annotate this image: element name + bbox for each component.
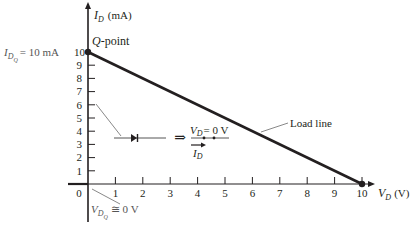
x-tick-labels: 1 2 3 4 5 6 7 8 9 10 bbox=[113, 187, 368, 199]
y-tick-label: 2 bbox=[77, 151, 83, 163]
x-ticks bbox=[115, 177, 362, 184]
y-ticks bbox=[88, 65, 95, 171]
terminal-dot bbox=[203, 137, 206, 140]
load-line-diagram: 1 2 3 4 5 6 7 8 9 10 ID(mA) bbox=[0, 0, 412, 229]
x-tick-label: 3 bbox=[167, 187, 173, 199]
implies-arrow-icon: ⇒ bbox=[174, 130, 186, 145]
vd-intercept-marker bbox=[359, 181, 365, 187]
x-axis-title: VD(V) bbox=[378, 186, 410, 202]
x-tick-label: 9 bbox=[332, 187, 338, 199]
x-tick-label: 10 bbox=[357, 187, 369, 199]
y-tick-label: 6 bbox=[77, 99, 83, 111]
diode-icon bbox=[131, 134, 137, 142]
y-tick-label: 10 bbox=[74, 46, 86, 58]
y-tick-label: 3 bbox=[77, 138, 83, 150]
x-tick-label: 4 bbox=[195, 187, 201, 199]
q-point-label: Q-point bbox=[92, 34, 130, 48]
current-arrow-icon bbox=[201, 143, 206, 148]
id-label: ID bbox=[192, 147, 203, 161]
x-tick-label: 7 bbox=[277, 187, 283, 199]
y-tick-labels: 1 2 3 4 5 6 7 8 9 10 bbox=[74, 46, 86, 177]
x-axis-arrow-icon bbox=[368, 181, 375, 187]
diode-leader-line bbox=[96, 104, 121, 136]
load-line-leader bbox=[261, 123, 288, 132]
x-tick-label: 1 bbox=[113, 187, 119, 199]
y-axis-title: ID(mA) bbox=[93, 8, 132, 24]
vdq-label: VDQ≅ 0 V bbox=[91, 203, 139, 220]
x-tick-label: 5 bbox=[222, 187, 228, 199]
y-tick-label: 8 bbox=[77, 72, 83, 84]
diode-equivalent: ⇒ VD= 0 V ID bbox=[114, 124, 229, 161]
x-tick-label: 8 bbox=[304, 187, 310, 199]
y-tick-label: 1 bbox=[77, 165, 83, 177]
x-axis: 1 2 3 4 5 6 7 8 9 10 0 VD(V) bbox=[68, 177, 410, 202]
y-tick-label: 5 bbox=[77, 112, 83, 124]
idq-label: IDQ= 10 mA bbox=[3, 46, 59, 63]
vd-equals-zero-label: VD= 0 V bbox=[190, 124, 229, 138]
y-tick-label: 9 bbox=[77, 59, 83, 71]
terminal-dot bbox=[213, 137, 216, 140]
y-axis-arrow-icon bbox=[85, 2, 91, 9]
origin-label: 0 bbox=[76, 187, 82, 199]
load-line-label: Load line bbox=[290, 117, 332, 129]
q-point-marker bbox=[85, 49, 91, 55]
x-tick-label: 2 bbox=[140, 187, 146, 199]
y-tick-label: 7 bbox=[77, 85, 83, 97]
x-tick-label: 6 bbox=[250, 187, 256, 199]
y-tick-label: 4 bbox=[77, 125, 83, 137]
